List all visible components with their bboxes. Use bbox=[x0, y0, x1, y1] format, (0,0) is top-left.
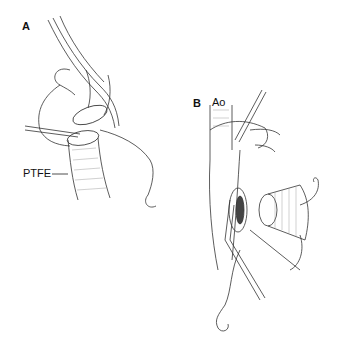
surgical-illustration bbox=[0, 0, 342, 344]
panel-a-drawing bbox=[25, 16, 156, 207]
panel-b-drawing bbox=[209, 90, 318, 331]
